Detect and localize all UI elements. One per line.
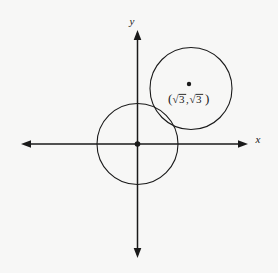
origin-dot [135, 141, 141, 147]
x-axis-arrow-left-icon [21, 140, 31, 148]
center-label-close-paren: ) [205, 91, 209, 106]
circle-tangent [150, 48, 232, 130]
math-figure-circles-coordinate-plane: y x ( √ 3 , √ 3 ) [0, 0, 278, 273]
x-axis [21, 140, 248, 148]
x-axis-label: x [255, 133, 261, 145]
y-axis-arrow-down-icon [134, 248, 142, 258]
center-point-label: ( √ 3 , √ 3 ) [168, 91, 209, 106]
center-label-value-two: 3 [196, 93, 202, 105]
coordinate-plane-svg: y x ( √ 3 , √ 3 ) [0, 0, 278, 273]
y-axis-arrow-up-icon [134, 30, 142, 40]
center-point-marker [187, 82, 191, 86]
center-label-value-one: 3 [179, 93, 185, 105]
x-axis-arrow-right-icon [238, 140, 248, 148]
y-axis-label: y [129, 15, 135, 27]
